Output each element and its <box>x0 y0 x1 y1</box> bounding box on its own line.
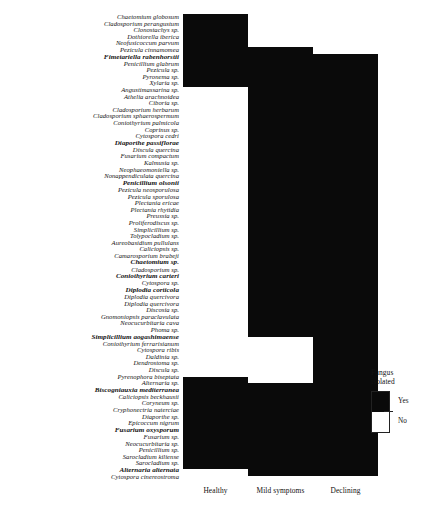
heatmap-cell <box>183 416 248 423</box>
heatmap-row <box>183 383 378 390</box>
heatmap-cell <box>248 232 313 239</box>
heatmap-row <box>183 443 378 450</box>
heatmap-cell <box>183 113 248 120</box>
heatmap-cell <box>248 67 313 74</box>
heatmap-cell <box>313 67 378 74</box>
heatmap-cell <box>248 403 313 410</box>
heatmap-row <box>183 271 378 278</box>
heatmap-cell <box>248 87 313 94</box>
heatmap-cell <box>248 27 313 34</box>
heatmap-cell <box>183 40 248 47</box>
heatmap-cell <box>313 357 378 364</box>
heatmap-row <box>183 159 378 166</box>
heatmap-cell <box>248 449 313 456</box>
heatmap-cell <box>183 284 248 291</box>
heatmap-cell <box>183 245 248 252</box>
heatmap-row <box>183 265 378 272</box>
heatmap-row <box>183 218 378 225</box>
heatmap-cell <box>183 238 248 245</box>
heatmap-cell <box>313 159 378 166</box>
legend-tick-mark <box>384 411 393 412</box>
heatmap-cell <box>313 146 378 153</box>
heatmap-cell <box>248 265 313 272</box>
heatmap-cell <box>183 54 248 61</box>
heatmap-cell <box>248 271 313 278</box>
heatmap-cell <box>313 133 378 140</box>
heatmap-cell <box>313 350 378 357</box>
heatmap-row <box>183 34 378 41</box>
heatmap-cell <box>313 152 378 159</box>
heatmap-cell <box>248 357 313 364</box>
heatmap-cell <box>183 133 248 140</box>
heatmap-cell <box>183 27 248 34</box>
x-axis-tick-labels: HealthyMild symptomsDeclining <box>183 476 378 502</box>
heatmap-cell <box>313 383 378 390</box>
heatmap-cell <box>313 377 378 384</box>
x-axis-tick-healthy: Healthy <box>183 476 248 502</box>
heatmap-cell <box>313 218 378 225</box>
heatmap-cell <box>183 390 248 397</box>
heatmap-cell <box>183 403 248 410</box>
heatmap-cell <box>313 298 378 305</box>
heatmap-cell <box>313 199 378 206</box>
heatmap-cell <box>248 377 313 384</box>
heatmap-cell <box>248 443 313 450</box>
heatmap-cell <box>313 469 378 476</box>
heatmap-cell <box>248 218 313 225</box>
heatmap-cell <box>183 172 248 179</box>
heatmap-cell <box>313 106 378 113</box>
heatmap-cell <box>248 324 313 331</box>
heatmap-row <box>183 311 378 318</box>
heatmap-row <box>183 152 378 159</box>
heatmap-row <box>183 245 378 252</box>
heatmap-cell <box>183 34 248 41</box>
heatmap-cell <box>313 291 378 298</box>
heatmap-cell <box>183 304 248 311</box>
heatmap-cell <box>248 337 313 344</box>
heatmap-cell <box>183 126 248 133</box>
heatmap-row <box>183 317 378 324</box>
heatmap-row <box>183 21 378 28</box>
heatmap-cell <box>183 120 248 127</box>
heatmap-cell <box>313 126 378 133</box>
heatmap-row <box>183 251 378 258</box>
heatmap-row <box>183 126 378 133</box>
heatmap-cell <box>183 152 248 159</box>
heatmap-cell <box>183 462 248 469</box>
heatmap-row <box>183 146 378 153</box>
heatmap-cell <box>313 317 378 324</box>
heatmap-row <box>183 27 378 34</box>
heatmap-row <box>183 350 378 357</box>
heatmap-cell <box>313 370 378 377</box>
heatmap-row <box>183 14 378 21</box>
legend-swatch-yes <box>372 392 389 412</box>
heatmap-row <box>183 40 378 47</box>
heatmap-cell <box>313 416 378 423</box>
heatmap-cell <box>183 350 248 357</box>
heatmap-cell <box>248 179 313 186</box>
heatmap-cell <box>313 462 378 469</box>
heatmap-cell <box>248 390 313 397</box>
heatmap-cell <box>183 87 248 94</box>
heatmap-row <box>183 363 378 370</box>
heatmap-row <box>183 113 378 120</box>
heatmap-cell <box>248 133 313 140</box>
heatmap-cell <box>183 93 248 100</box>
heatmap-cell <box>313 311 378 318</box>
heatmap-cell <box>183 73 248 80</box>
heatmap-row <box>183 423 378 430</box>
heatmap-row <box>183 225 378 232</box>
heatmap-cell <box>248 185 313 192</box>
heatmap-row <box>183 449 378 456</box>
heatmap-row <box>183 54 378 61</box>
heatmap-cell <box>183 212 248 219</box>
heatmap-row <box>183 278 378 285</box>
heatmap-cell <box>248 225 313 232</box>
heatmap-row <box>183 166 378 173</box>
heatmap-cell <box>313 205 378 212</box>
heatmap-cell <box>248 284 313 291</box>
heatmap-cell <box>183 311 248 318</box>
heatmap-cell <box>183 410 248 417</box>
heatmap-cell <box>248 363 313 370</box>
heatmap-row <box>183 462 378 469</box>
